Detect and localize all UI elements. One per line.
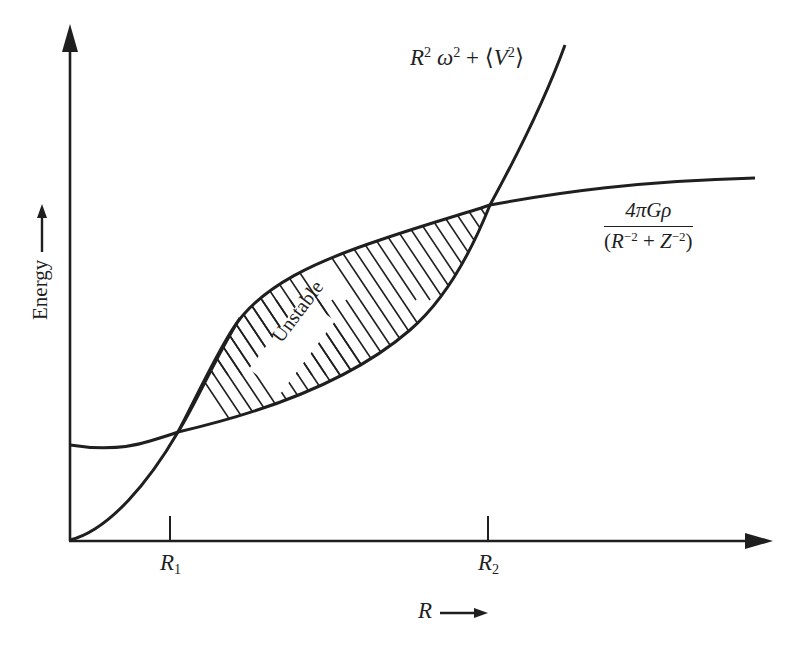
unstable-hatching — [100, 150, 542, 450]
tick-label-r2: R2 — [478, 550, 499, 576]
right-arrow-icon — [440, 607, 488, 619]
x-axis-arrow-icon — [745, 533, 773, 549]
curve-kinetic-steep — [178, 318, 240, 432]
x-axis-label: R — [418, 598, 488, 624]
curve-gravitational-label: 4πGρ (R−2 + Z−2) — [604, 198, 693, 254]
up-arrow-icon — [36, 204, 48, 252]
axes — [69, 48, 748, 541]
tick-label-r1: R1 — [160, 550, 181, 576]
energy-diagram: R2 ω2 + ⟨V2⟩ 4πGρ (R−2 + Z−2) Unstable R… — [0, 0, 800, 645]
diagram-canvas — [0, 0, 800, 645]
label-denominator: (R−2 + Z−2) — [604, 227, 693, 254]
curve-kinetic-label: R2 ω2 + ⟨V2⟩ — [410, 44, 524, 71]
label-numerator: 4πGρ — [604, 198, 693, 227]
y-axis-label: Energy — [28, 204, 53, 320]
y-axis-arrow-icon — [62, 24, 78, 52]
